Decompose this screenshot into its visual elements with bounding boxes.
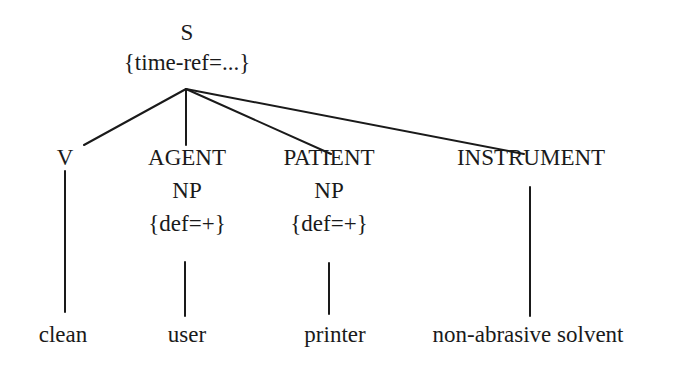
node-v-role: V (57, 144, 74, 172)
node-patient-category: NP (283, 177, 374, 205)
leaf-user: user (168, 321, 206, 349)
node-patient-feature: {def=+} (283, 210, 374, 238)
edge-s-to-v (84, 89, 186, 145)
node-agent-feature: {def=+} (148, 210, 226, 238)
node-agent-role: AGENT (148, 144, 226, 172)
root-label: S (124, 19, 250, 47)
node-instrument: INSTRUMENT (457, 144, 605, 172)
leaf-printer: printer (304, 321, 365, 349)
node-patient-role: PATIENT (283, 144, 374, 172)
node-patient: PATIENT NP {def=+} (283, 144, 374, 238)
node-v: V (57, 144, 74, 172)
node-agent-category: NP (148, 177, 226, 205)
node-instrument-role: INSTRUMENT (457, 144, 605, 172)
syntax-tree-diagram: S {time-ref=...} V AGENT NP {def=+} PATI… (0, 0, 680, 369)
node-agent: AGENT NP {def=+} (148, 144, 226, 238)
root-node-s: S {time-ref=...} (124, 19, 250, 77)
root-feature: {time-ref=...} (124, 49, 250, 77)
leaf-non-abrasive-solvent: non-abrasive solvent (433, 321, 624, 349)
leaf-clean: clean (39, 321, 88, 349)
